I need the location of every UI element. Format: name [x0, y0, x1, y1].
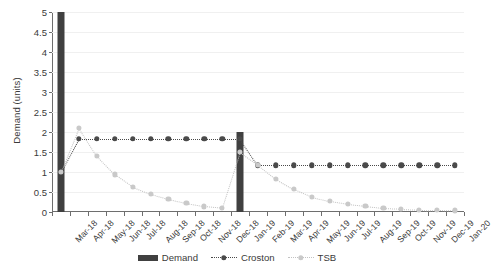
x-tick-mark [374, 212, 375, 216]
croston-data-point [202, 136, 207, 141]
croston-data-point [452, 162, 457, 167]
chart-legend: Demand Croston TSB [0, 252, 474, 263]
y-tick-label: 3 [42, 87, 47, 98]
x-tick-mark [428, 212, 429, 216]
x-tick-mark [249, 212, 250, 216]
croston-data-point [130, 136, 135, 141]
y-tick-label: 1 [42, 167, 47, 178]
croston-data-point [94, 136, 99, 141]
x-tick-mark [446, 212, 447, 216]
y-tick-mark [49, 72, 52, 73]
legend-item-croston: Croston [211, 252, 275, 263]
x-tick-mark [357, 212, 358, 216]
croston-data-point [219, 136, 224, 141]
x-tick-mark [464, 212, 465, 216]
croston-data-point [112, 136, 117, 141]
y-tick-mark [49, 172, 52, 173]
x-tick-mark [195, 212, 196, 216]
x-tick-mark [339, 212, 340, 216]
legend-label-croston: Croston [241, 252, 275, 263]
tsb-data-point [452, 208, 457, 213]
y-tick-mark [49, 112, 52, 113]
gridline [52, 32, 464, 33]
x-tick-mark [392, 212, 393, 216]
gridline [52, 52, 464, 53]
y-tick-mark [49, 12, 52, 13]
croston-data-point [345, 162, 350, 167]
demand-bar [57, 12, 64, 212]
x-tick-mark [124, 212, 125, 216]
legend-label-demand: Demand [162, 252, 198, 263]
y-tick-label: 4 [42, 47, 47, 58]
gridline [52, 12, 464, 13]
y-tick-mark [49, 152, 52, 153]
y-tick-label: 2 [42, 127, 47, 138]
y-tick-label: 1.5 [34, 147, 47, 158]
tsb-data-point [184, 201, 189, 206]
croston-data-point [148, 136, 153, 141]
gridline [52, 92, 464, 93]
gridline [52, 72, 464, 73]
croston-data-point [327, 162, 332, 167]
legend-label-tsb: TSB [318, 252, 337, 263]
gridline [52, 132, 464, 133]
x-tick-mark [410, 212, 411, 216]
legend-item-demand: Demand [138, 252, 198, 263]
tsb-data-point [202, 204, 207, 209]
croston-data-point [417, 162, 422, 167]
y-tick-label: 5 [42, 7, 47, 18]
y-tick-label: 2.5 [34, 107, 47, 118]
demand-swatch-icon [138, 255, 158, 261]
x-tick-mark [70, 212, 71, 216]
x-tick-mark [106, 212, 107, 216]
tsb-data-point [363, 203, 368, 208]
x-tick-mark [231, 212, 232, 216]
croston-swatch-icon [211, 257, 237, 258]
legend-item-tsb: TSB [288, 252, 337, 263]
x-tick-mark [267, 212, 268, 216]
x-tick-mark [303, 212, 304, 216]
x-tick-mark [88, 212, 89, 216]
tsb-data-point [220, 205, 225, 210]
y-tick-label: 0 [42, 207, 47, 218]
y-axis-title: Demand (units) [11, 46, 22, 176]
x-axis-line [52, 211, 464, 212]
x-tick-mark [285, 212, 286, 216]
croston-data-point [166, 136, 171, 141]
tsb-data-point [166, 197, 171, 202]
y-tick-label: 0.5 [34, 187, 47, 198]
croston-data-point [363, 162, 368, 167]
y-tick-mark [49, 92, 52, 93]
croston-data-point [76, 136, 81, 141]
x-tick-mark [52, 212, 53, 216]
y-tick-mark [49, 132, 52, 133]
y-tick-label: 4.5 [34, 27, 47, 38]
croston-data-point [399, 162, 404, 167]
tsb-data-point [327, 199, 332, 204]
x-tick-mark [142, 212, 143, 216]
gridline [52, 152, 464, 153]
croston-data-point [184, 136, 189, 141]
croston-data-point [309, 162, 314, 167]
tsb-data-point [381, 205, 386, 210]
y-tick-mark [49, 32, 52, 33]
y-tick-mark [49, 192, 52, 193]
tsb-data-point [148, 191, 153, 196]
gridline [52, 112, 464, 113]
x-tick-mark [213, 212, 214, 216]
croston-data-point [291, 162, 296, 167]
croston-data-point [273, 162, 278, 167]
plot-area: 00.511.522.533.544.55Mar-18Apr-18May-18J… [52, 12, 464, 212]
gridline [52, 192, 464, 193]
x-tick-mark [177, 212, 178, 216]
tsb-data-point [345, 201, 350, 206]
x-tick-mark [321, 212, 322, 216]
y-tick-label: 3.5 [34, 67, 47, 78]
x-tick-mark [159, 212, 160, 216]
croston-data-point [434, 162, 439, 167]
tsb-swatch-icon [288, 257, 314, 258]
y-tick-mark [49, 52, 52, 53]
croston-data-point [381, 162, 386, 167]
